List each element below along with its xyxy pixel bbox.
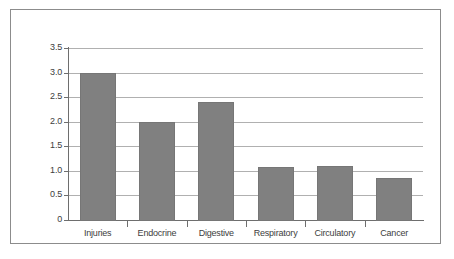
- y-tick-label-3-5: 3.5: [32, 43, 62, 52]
- y-tick-mark-0-5: [64, 195, 69, 196]
- x-separator-tick-2: [187, 221, 188, 227]
- y-tick-label-3-0-wrap: 3.0: [29, 68, 62, 78]
- y-tick-label-0-wrap: 0: [29, 215, 62, 225]
- x-label-injuries: Injuries: [68, 229, 127, 239]
- y-tick-label-1-5: 1.5: [32, 141, 62, 150]
- y-tick-mark-3-5: [64, 48, 69, 49]
- y-tick-mark-2-0: [64, 122, 69, 123]
- bar-cancer: [376, 178, 412, 221]
- bar-digestive: [198, 102, 234, 221]
- x-separator-tick-5: [365, 221, 366, 227]
- gridline-0-5: [69, 195, 423, 196]
- y-tick-label-3-0: 3.0: [32, 68, 62, 77]
- bar-respiratory: [258, 167, 294, 221]
- gridline-2-5: [69, 97, 423, 98]
- bar-circulatory: [317, 166, 353, 221]
- x-label-endocrine: Endocrine: [127, 229, 186, 239]
- gridline-1-5: [69, 146, 423, 147]
- y-tick-mark-1-5: [64, 146, 69, 147]
- x-label-digestive: Digestive: [187, 229, 246, 239]
- y-tick-mark-2-5: [64, 97, 69, 98]
- y-tick-label-2-0-wrap: 2.0: [29, 117, 62, 127]
- x-separator-tick-4: [305, 221, 306, 227]
- y-tick-label-2-0: 2.0: [32, 117, 62, 126]
- chart-outer-frame: 3.5 3.0 2.5 2.0 1.5 1.0 0.5 0: [10, 9, 441, 244]
- y-tick-label-1-0-wrap: 1.0: [29, 166, 62, 176]
- gridline-3-5: [69, 48, 423, 49]
- x-separator-tick-1: [127, 221, 128, 227]
- x-label-circulatory: Circulatory: [305, 229, 364, 239]
- plot-area: [69, 48, 423, 220]
- x-separator-tick-3: [246, 221, 247, 227]
- chart-figure: 3.5 3.0 2.5 2.0 1.5 1.0 0.5 0: [0, 0, 454, 259]
- y-tick-mark-3-0: [64, 73, 69, 74]
- y-tick-label-3-5-wrap: 3.5: [29, 43, 62, 53]
- y-tick-label-1-0: 1.0: [32, 166, 62, 175]
- gridline-2-0: [69, 122, 423, 123]
- gridline-3-0: [69, 73, 423, 74]
- y-tick-mark-0: [64, 220, 69, 221]
- bar-endocrine: [139, 122, 175, 221]
- y-tick-label-1-5-wrap: 1.5: [29, 141, 62, 151]
- y-tick-label-2-5: 2.5: [32, 92, 62, 101]
- y-tick-label-0-5: 0.5: [32, 190, 62, 199]
- y-tick-label-0: 0: [32, 215, 62, 224]
- x-label-cancer: Cancer: [365, 229, 424, 239]
- bar-injuries: [80, 73, 116, 221]
- gridline-1-0: [69, 171, 423, 172]
- y-tick-label-2-5-wrap: 2.5: [29, 92, 62, 102]
- x-label-respiratory: Respiratory: [246, 229, 305, 239]
- y-tick-label-0-5-wrap: 0.5: [29, 190, 62, 200]
- y-tick-mark-1-0: [64, 171, 69, 172]
